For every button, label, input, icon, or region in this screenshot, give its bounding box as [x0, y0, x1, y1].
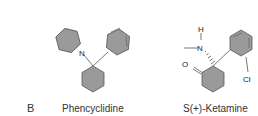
cyclohexane-ring [82, 66, 104, 92]
ketamine-structure [184, 30, 252, 92]
hydrogen-atom: H [198, 25, 204, 34]
nitrogen-atom-ketamine: N [197, 44, 203, 53]
phencyclidine-label: Phencyclidine [62, 103, 124, 114]
cyclohexanone-ring [202, 66, 224, 92]
ketamine-label: S(+)-Ketamine [183, 103, 248, 114]
phencyclidine-structure [54, 26, 130, 92]
panel-label: B [27, 102, 34, 114]
oxygen-atom: O [182, 60, 188, 69]
nitrogen-atom-pcp: N [79, 49, 85, 58]
chlorine-atom: Cl [243, 75, 251, 84]
piperidine-ring [54, 26, 82, 56]
structures-figure: N H N O Cl [0, 0, 258, 116]
